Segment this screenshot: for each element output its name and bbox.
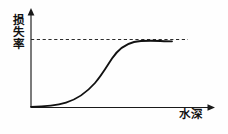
chart-figure: 损失率 水深 [0, 0, 228, 134]
loss-rate-curve [31, 41, 172, 107]
x-axis-label: 水深 [179, 109, 202, 121]
y-axis-arrow-icon [28, 8, 35, 16]
y-axis-label: 损失率 [11, 14, 24, 50]
x-axis-arrow-icon [208, 104, 216, 111]
